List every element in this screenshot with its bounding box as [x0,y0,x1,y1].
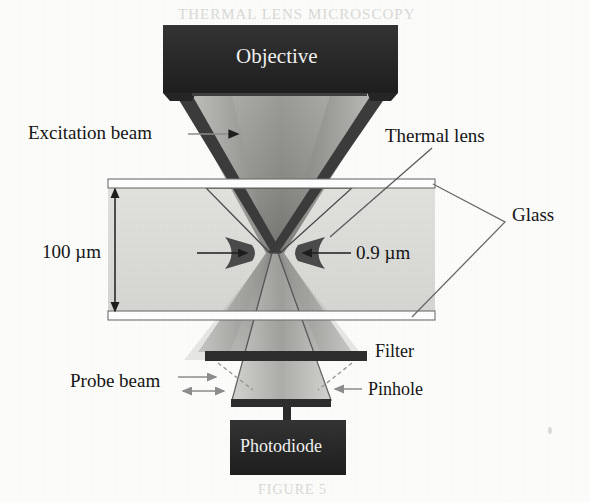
sample-thickness-dimension-label: 100 µm [42,242,101,261]
glass-slide-top [108,179,435,188]
beam-waist-dimension-label: 0.9 µm [356,243,410,262]
glass-slide-bottom [108,311,435,320]
pinhole-bar [231,399,331,407]
probe-beam-label: Probe beam [70,371,160,390]
objective-shoulder-left [163,93,196,101]
scan-speck [548,427,552,434]
photodiode-stem [283,407,291,421]
glass-label: Glass [512,205,554,224]
filter-bar [205,351,367,361]
objective-label: Objective [236,46,318,67]
excitation-beam-label: Excitation beam [28,123,152,142]
objective-shoulder-right [367,93,398,101]
pinhole-label: Pinhole [368,380,423,398]
figure-canvas: THERMAL LENS MICROSCOPY FIGURE 5 [0,0,590,502]
photodiode-label: Photodiode [240,437,322,455]
objective-aperture-strip [192,93,367,96]
filter-label: Filter [375,342,414,360]
thermal-lens-label: Thermal lens [385,126,485,145]
